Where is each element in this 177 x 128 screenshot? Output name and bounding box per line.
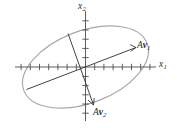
vector-av1-line (27, 48, 137, 90)
x2-axis-label: x2 (78, 2, 86, 12)
Av1-label: Av1 (137, 41, 150, 51)
Av2-label: Av2 (93, 108, 106, 118)
vector-av2-group (68, 34, 94, 106)
x2-axis-label-sub: 2 (82, 5, 85, 12)
vector-av2-line (68, 34, 94, 106)
x1-axis-label-sub: 1 (163, 63, 166, 70)
figure-canvas (0, 0, 177, 128)
Av2-label-sub: 2 (103, 111, 106, 118)
vector-av1-arrowhead (130, 45, 136, 52)
ellipse-vector-figure: x2 x1 Av1 Av2 (0, 0, 177, 128)
Av1-label-sub: 1 (147, 44, 150, 51)
x1-axis-label: x1 (159, 60, 167, 70)
